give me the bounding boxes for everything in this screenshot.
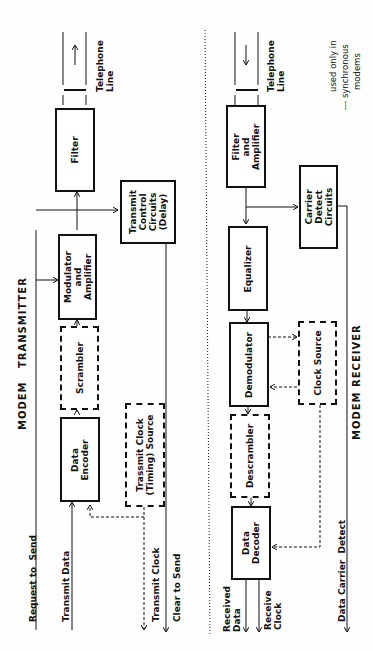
received-data-label: Received Data — [222, 586, 242, 632]
receiver-title: MODEM RECEIVER — [352, 324, 362, 440]
data-carrier-detect-label: Data Carrier Detect — [337, 520, 347, 622]
clock-source-block: Clock Source — [298, 321, 337, 405]
filter-amplifier-block: Filter and Amplifier — [226, 105, 266, 188]
transmit-control-block: Transmit Control Circuits (Delay) — [120, 180, 176, 244]
filter-block: Filter — [55, 108, 95, 192]
telephone-line-label-tx: Telephone Line — [95, 40, 115, 92]
clear-to-send-label: Clear to Send — [172, 554, 182, 623]
data-encoder-block: Data Encoder — [60, 417, 100, 502]
request-to-send-label: Request to Send — [28, 535, 38, 622]
demodulator-block: Demodulator — [229, 322, 269, 407]
legend-line-3: modems — [352, 53, 362, 90]
descrambler-block: Descrambler — [230, 414, 270, 498]
carrier-detect-block: Carrier Detect Circuits — [299, 165, 338, 249]
transmit-clock-label: Transmit Clock — [151, 547, 161, 622]
transmitter-title: MODEM TRANSMITTER — [18, 277, 28, 430]
telephone-line-label-rx: Telephone Line — [266, 40, 286, 92]
scrambler-block: Scrambler — [60, 326, 99, 410]
modulator-amplifier-block: Modulator and Amplifier — [58, 234, 97, 320]
transmit-data-label: Transmit Data — [61, 551, 71, 622]
transmit-clock-source-block: Trassmit Clock (Timing) Source — [125, 403, 165, 507]
legend-line-2: --- synchronous — [340, 44, 350, 110]
legend-line-1: used only in — [328, 40, 338, 92]
data-decoder-block: Data Decoder — [231, 506, 271, 580]
equalizer-block: Equalizer — [228, 226, 268, 311]
modem-block-diagram: Filter Modulator and Amplifier Scrambler… — [0, 0, 373, 651]
receive-clock-label: Receive Clock — [263, 590, 283, 630]
